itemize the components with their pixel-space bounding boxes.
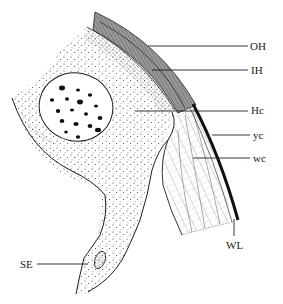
- label-wc: wc: [253, 153, 266, 164]
- label-hc: Hc: [251, 105, 264, 116]
- cross-section-drawing: [0, 0, 283, 304]
- diagram-figure: OH IH Hc yc wc WL SE: [0, 0, 283, 304]
- label-oh: OH: [250, 41, 266, 52]
- label-ih: IH: [251, 65, 263, 76]
- label-wl: WL: [226, 240, 243, 251]
- label-yc: yc: [253, 130, 263, 141]
- label-se: SE: [20, 259, 33, 270]
